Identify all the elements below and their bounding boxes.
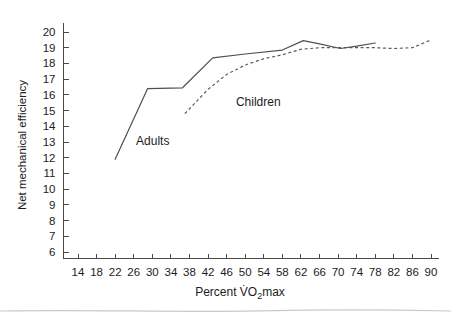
- x-tick-label: 30: [146, 266, 159, 278]
- y-tick-label: 16: [43, 89, 56, 101]
- y-tick-label: 17: [43, 73, 56, 85]
- x-axis-title-o: O: [248, 285, 257, 299]
- x-tick-label: 86: [406, 266, 419, 278]
- x-axis-tick-labels: 1418222630343842465054586266707478828690: [72, 266, 438, 278]
- series-line-children: [185, 40, 431, 114]
- x-tick-label: 34: [164, 266, 177, 278]
- x-tick-label: 26: [127, 266, 140, 278]
- y-tick-label: 20: [43, 26, 56, 38]
- y-tick-label: 11: [44, 167, 56, 179]
- x-axis-title-prefix: Percent: [195, 285, 240, 299]
- x-tick-label: 46: [220, 266, 233, 278]
- y-tick-label: 10: [43, 183, 56, 195]
- x-tick-label: 42: [202, 266, 215, 278]
- x-tick-label: 82: [387, 266, 400, 278]
- x-tick-label: 50: [239, 266, 252, 278]
- y-tick-label: 6: [49, 246, 55, 258]
- x-axis-title-suffix: max: [262, 285, 285, 299]
- page-bottom-rule: [0, 310, 451, 312]
- y-tick-label: 15: [43, 105, 56, 117]
- x-tick-label: 38: [183, 266, 196, 278]
- y-axis-ticks: [64, 32, 69, 252]
- x-tick-label: 14: [72, 266, 85, 278]
- y-axis-title: Net mechanical efficiency: [16, 80, 28, 210]
- y-tick-label: 13: [43, 136, 56, 148]
- x-tick-label: 74: [350, 266, 363, 278]
- series-annotation-children: Children: [236, 95, 281, 109]
- y-tick-label: 9: [49, 199, 55, 211]
- y-axis-tick-labels: 67891011121314151617181920: [43, 26, 56, 258]
- x-tick-label: 18: [90, 266, 103, 278]
- x-tick-label: 66: [313, 266, 326, 278]
- y-tick-label: 8: [49, 215, 55, 227]
- y-tick-label: 14: [43, 120, 56, 132]
- x-axis-title-vdot: V̇: [240, 285, 248, 299]
- y-tick-label: 18: [43, 57, 56, 69]
- x-tick-label: 62: [295, 266, 308, 278]
- x-tick-label: 58: [276, 266, 289, 278]
- x-tick-label: 78: [369, 266, 382, 278]
- series-annotation-adults: Adults: [136, 134, 169, 148]
- y-tick-label: 12: [43, 152, 56, 164]
- x-tick-label: 90: [425, 266, 438, 278]
- axes: [64, 23, 440, 259]
- x-tick-label: 22: [109, 266, 122, 278]
- chart-figure: 67891011121314151617181920 1418222630343…: [0, 0, 451, 319]
- y-tick-label: 7: [49, 230, 55, 242]
- x-tick-label: 70: [332, 266, 345, 278]
- y-tick-label: 19: [43, 42, 56, 54]
- x-axis-ticks: [78, 254, 431, 259]
- x-axis-title: Percent V̇O2max: [195, 285, 285, 301]
- x-tick-label: 54: [257, 266, 270, 278]
